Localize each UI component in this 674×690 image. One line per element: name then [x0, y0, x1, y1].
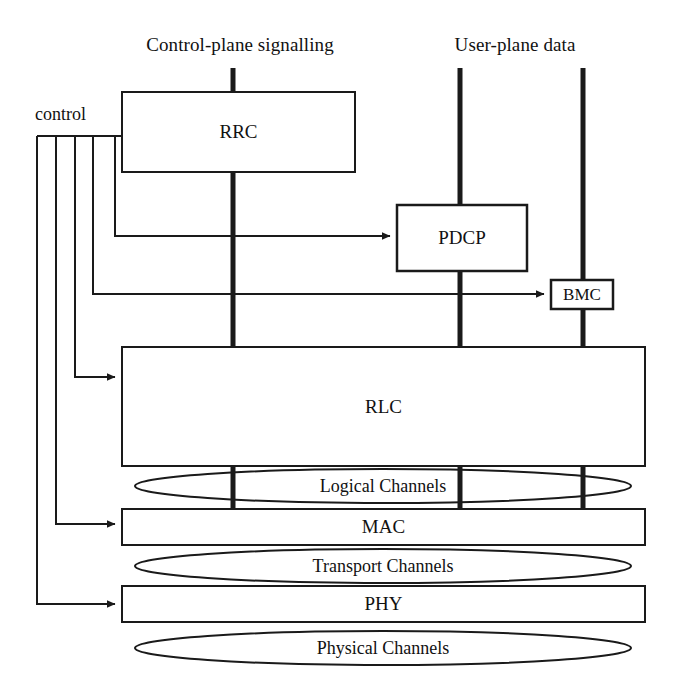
transport-channels-label: Transport Channels — [135, 549, 631, 583]
logical-channels-label: Logical Channels — [135, 469, 631, 503]
physical-channels-label: Physical Channels — [135, 631, 631, 665]
control-line-to-mac — [56, 136, 115, 524]
control-bus-label: control — [35, 104, 86, 125]
control-line-to-rlc — [75, 136, 115, 377]
phy-label: PHY — [122, 586, 645, 622]
rlc-label: RLC — [122, 347, 645, 466]
rrc-label: RRC — [122, 92, 355, 172]
protocol-architecture-diagram: Control-plane signalling User-plane data… — [0, 0, 674, 690]
pdcp-label: PDCP — [397, 205, 527, 271]
mac-label: MAC — [122, 509, 645, 545]
bmc-label: BMC — [551, 280, 613, 309]
user-plane-label: User-plane data — [400, 34, 630, 56]
control-plane-label: Control-plane signalling — [120, 34, 360, 56]
